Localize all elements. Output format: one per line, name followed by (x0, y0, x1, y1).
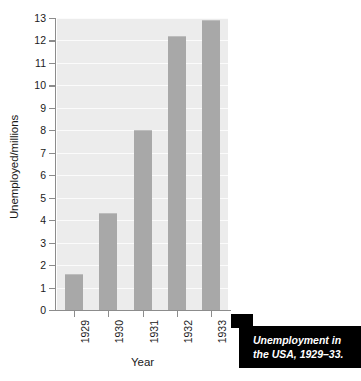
y-axis-tick (49, 265, 55, 266)
y-axis-tick (49, 130, 55, 131)
y-axis-tick-label: 1 (5, 282, 49, 294)
y-axis-tick-label: 13 (5, 12, 49, 24)
caption-line-2: the USA, 1929–33. (253, 347, 361, 361)
y-axis-tick-label: 11 (5, 57, 49, 69)
y-axis-tick (49, 40, 55, 41)
y-axis-tick-labels: 012345678910111213 (0, 0, 49, 381)
y-axis-tick (49, 153, 55, 154)
gridline (57, 18, 228, 19)
y-axis-tick (49, 85, 55, 86)
y-axis-tick-label: 6 (5, 169, 49, 181)
bar (202, 20, 220, 310)
caption-banner: Unemployment in the USA, 1929–33. (231, 314, 361, 368)
x-axis-tick-label: 1931 (148, 320, 160, 380)
bar (65, 274, 83, 310)
y-axis-tick (49, 243, 55, 244)
bar (134, 130, 152, 310)
y-axis-tick-label: 3 (5, 237, 49, 249)
x-axis-tick-label: 1933 (216, 320, 228, 380)
x-axis-tick-label: 1932 (182, 320, 194, 380)
y-axis-tick-label: 4 (5, 214, 49, 226)
y-axis-tick-label: 8 (5, 124, 49, 136)
chart-figure: Unemployed/millions 012345678910111213 Y… (0, 0, 361, 381)
y-axis-tick (49, 18, 55, 19)
caption-line-1: Unemployment in (253, 333, 361, 347)
y-axis-tick (49, 310, 55, 311)
y-axis-tick-label: 9 (5, 102, 49, 114)
y-axis-tick-label: 2 (5, 259, 49, 271)
y-axis-tick (49, 175, 55, 176)
plot-area (57, 18, 228, 310)
x-axis-tick (177, 311, 178, 317)
y-axis-tick (49, 198, 55, 199)
bar (168, 36, 186, 310)
x-axis-tick (143, 311, 144, 317)
y-axis-tick (49, 220, 55, 221)
y-axis-tick (49, 63, 55, 64)
x-axis-tick-label: 1929 (79, 320, 91, 380)
y-axis-tick-label: 10 (5, 79, 49, 91)
x-axis-tick-label: 1930 (113, 320, 125, 380)
y-axis-tick (49, 288, 55, 289)
bar (99, 213, 117, 310)
x-axis-tick (108, 311, 109, 317)
x-axis-tick (74, 311, 75, 317)
x-axis-tick (211, 311, 212, 317)
y-axis-tick-label: 7 (5, 147, 49, 159)
y-axis-tick-label: 5 (5, 192, 49, 204)
plot-frame (57, 18, 228, 310)
y-axis-tick-label: 0 (5, 304, 49, 316)
y-axis-tick-label: 12 (5, 34, 49, 46)
y-axis-tick (49, 108, 55, 109)
caption-text: Unemployment in the USA, 1929–33. (253, 333, 361, 361)
